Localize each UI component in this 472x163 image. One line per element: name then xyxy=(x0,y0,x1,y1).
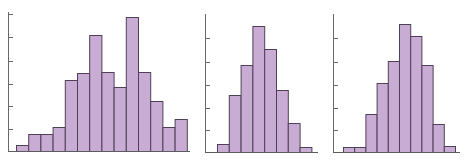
histogram-bar xyxy=(78,74,90,152)
histogram-bar xyxy=(53,128,65,152)
histogram-bar xyxy=(218,145,230,153)
histogram-bar xyxy=(300,148,312,153)
histogram-bar xyxy=(29,135,41,152)
histogram-bar xyxy=(344,148,355,153)
histogram-bar xyxy=(444,147,455,153)
histogram-bar xyxy=(90,36,102,152)
histogram-bar xyxy=(17,146,29,152)
histogram-3-plot xyxy=(324,0,472,163)
histogram-1 xyxy=(0,0,196,163)
histogram-bar xyxy=(377,84,388,153)
histogram-bar xyxy=(175,120,187,152)
histogram-3 xyxy=(324,0,472,163)
histogram-bar xyxy=(102,73,114,152)
histogram-bar xyxy=(139,73,151,152)
histogram-bar xyxy=(265,50,277,153)
histogram-2 xyxy=(196,0,324,163)
histogram-bar xyxy=(253,27,265,153)
histogram-bar xyxy=(241,66,253,153)
histogram-bar xyxy=(126,18,138,152)
histogram-bar xyxy=(114,88,126,152)
histogram-bar xyxy=(433,125,444,153)
histogram-bar xyxy=(277,91,289,153)
histogram-bar xyxy=(41,135,53,152)
histogram-2-plot xyxy=(196,0,324,163)
histogram-bar xyxy=(400,25,411,153)
histogram-bar xyxy=(229,96,241,153)
histogram-bar xyxy=(422,66,433,153)
histogram-bar xyxy=(388,62,399,153)
histogram-bar xyxy=(151,102,163,152)
histogram-bar xyxy=(288,124,300,153)
histogram-1-plot xyxy=(0,0,196,163)
histogram-bar xyxy=(355,148,366,153)
histogram-bar xyxy=(163,128,175,152)
histogram-bar xyxy=(411,37,422,153)
histogram-bar xyxy=(366,115,377,153)
histogram-bar xyxy=(65,81,77,152)
